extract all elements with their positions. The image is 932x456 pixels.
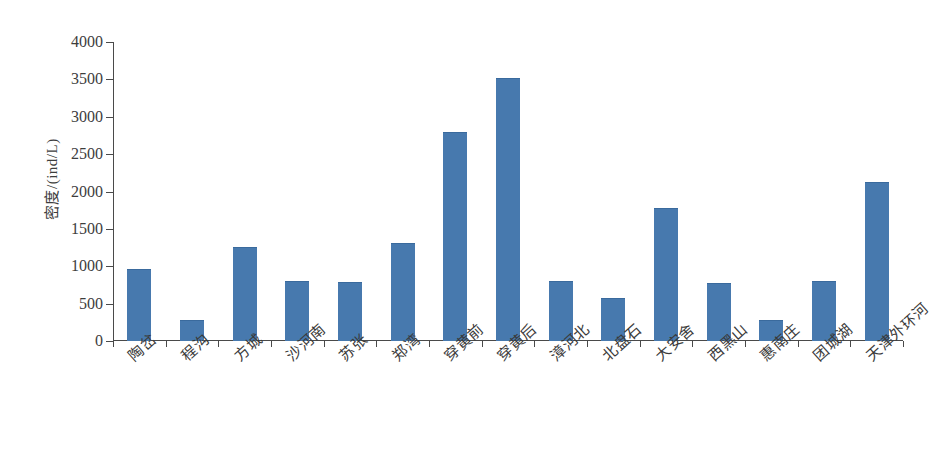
y-tick-label: 500: [79, 295, 103, 313]
bar-slot: [429, 42, 482, 341]
bar-slot: [271, 42, 324, 341]
y-axis-title: 密度/(ind/L): [40, 60, 66, 220]
bar-slot: [113, 42, 166, 341]
bar-slot: [534, 42, 587, 341]
bar-slot: [692, 42, 745, 341]
x-tick-mark: [534, 341, 535, 347]
x-tick-mark: [587, 341, 588, 347]
x-tick-mark: [745, 341, 746, 347]
x-tick-mark: [218, 341, 219, 347]
y-tick-label: 0: [95, 332, 103, 350]
y-tick-mark: [106, 117, 113, 118]
x-tick-mark: [376, 341, 377, 347]
y-tick-mark: [106, 266, 113, 267]
y-tick-label: 2500: [71, 145, 103, 163]
x-tick-mark: [324, 341, 325, 347]
x-tick-mark: [850, 341, 851, 347]
bar-slot: [324, 42, 377, 341]
y-tick-label: 3500: [71, 70, 103, 88]
bar-slot: [376, 42, 429, 341]
x-tick-mark: [271, 341, 272, 347]
y-tick-mark: [106, 154, 113, 155]
bar-slot: [640, 42, 693, 341]
x-tick-mark: [166, 341, 167, 347]
bar-slot: [745, 42, 798, 341]
y-tick-label: 3000: [71, 108, 103, 126]
x-tick-mark: [903, 341, 904, 347]
bar-slot: [218, 42, 271, 341]
y-tick-label: 2000: [71, 183, 103, 201]
y-tick-mark: [106, 42, 113, 43]
y-tick-mark: [106, 341, 113, 342]
y-tick-mark: [106, 79, 113, 80]
y-tick-mark: [106, 229, 113, 230]
x-tick-mark: [798, 341, 799, 347]
y-tick-label: 1000: [71, 257, 103, 275]
bar-slot: [587, 42, 640, 341]
x-tick-mark: [429, 341, 430, 347]
bar[interactable]: [391, 243, 415, 341]
bars-layer: [113, 42, 903, 341]
x-tick-mark: [640, 341, 641, 347]
bar[interactable]: [443, 132, 467, 341]
bar[interactable]: [233, 247, 257, 341]
bar-slot: [166, 42, 219, 341]
bar-slot: [850, 42, 903, 341]
bar-slot: [798, 42, 851, 341]
bar[interactable]: [865, 182, 889, 341]
y-tick-label: 4000: [71, 33, 103, 51]
bar[interactable]: [654, 208, 678, 341]
bar-slot: [482, 42, 535, 341]
x-tick-mark: [692, 341, 693, 347]
y-tick-mark: [106, 192, 113, 193]
plot-area: 40003500300025002000150010005000: [113, 42, 903, 341]
y-tick-label: 1500: [71, 220, 103, 238]
y-tick-mark: [106, 304, 113, 305]
x-axis-labels: 陶岔程沟方城沙河南苏张郑湾穿黄前穿黄后漳河北北盘石大安舍西黑山惠南庄团城湖天津外…: [113, 349, 923, 456]
bar[interactable]: [496, 78, 520, 341]
x-tick-mark: [113, 341, 114, 347]
x-tick-mark: [482, 341, 483, 347]
